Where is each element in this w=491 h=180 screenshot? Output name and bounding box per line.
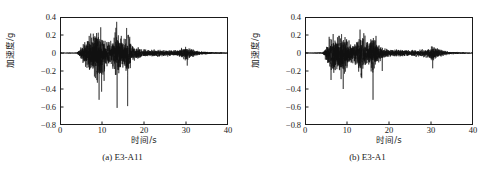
x-tick-label: 10 <box>335 126 359 135</box>
plot-area-a <box>60 17 228 125</box>
axis-frame-a <box>61 18 228 125</box>
x-tick-label: 30 <box>174 126 198 135</box>
y-axis-title-a: 加速度/g <box>6 18 15 82</box>
x-axis-title-a: 时间/s <box>60 136 228 145</box>
y-tick-label: −0.4 <box>4 85 56 94</box>
y-tick-label: −0.6 <box>4 103 56 112</box>
x-tick-label: 40 <box>461 126 485 135</box>
x-tick-label: 20 <box>132 126 156 135</box>
waveform-trace-a <box>60 22 228 108</box>
x-tick-label: 30 <box>419 126 443 135</box>
y-tick-label: −0.6 <box>249 103 301 112</box>
waveform-plot-b <box>305 17 473 125</box>
panel-caption-a: (a) E3-A11 <box>0 153 245 162</box>
chart-panel-a: 0.4 0.2 0 −0.2 −0.4 −0.6 −0.8 0 10 20 30… <box>0 0 245 180</box>
axis-frame-b <box>306 18 473 125</box>
x-tick-label: 0 <box>293 126 317 135</box>
y-axis-title-b: 加速度/g <box>251 18 260 82</box>
y-tick-label: −0.4 <box>249 85 301 94</box>
x-tick-label: 0 <box>48 126 72 135</box>
panel-caption-b: (b) E3-A1 <box>245 153 490 162</box>
chart-panel-b: 0.4 0.2 0 −0.2 −0.4 −0.6 −0.8 0 10 20 30… <box>245 0 490 180</box>
waveform-plot-a <box>60 17 228 125</box>
x-tick-label: 10 <box>90 126 114 135</box>
figure-root: 0.4 0.2 0 −0.2 −0.4 −0.6 −0.8 0 10 20 30… <box>0 0 491 180</box>
x-tick-label: 20 <box>377 126 401 135</box>
waveform-trace-b <box>305 30 473 100</box>
plot-area-b <box>305 17 473 125</box>
x-tick-label: 40 <box>216 126 240 135</box>
x-axis-title-b: 时间/s <box>305 136 473 145</box>
